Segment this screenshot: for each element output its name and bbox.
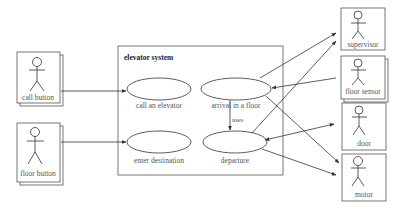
arrow-departure-to-motor	[262, 149, 336, 175]
actor-door[interactable]: door	[342, 103, 386, 150]
use-case-diagram: elevator system call an elevator arrival…	[0, 0, 405, 213]
actor-label: floor button	[20, 169, 56, 178]
use-case-enter-destination[interactable]: enter destination	[127, 131, 191, 165]
uses-label: uses	[232, 116, 244, 123]
actor-label: floor sensor	[345, 87, 381, 96]
actor-motor[interactable]: motor	[342, 154, 386, 201]
use-case-label: arrival in a floor	[212, 101, 261, 110]
use-case-label: call an elevator	[136, 101, 182, 110]
use-case-arrival-in-a-floor[interactable]: arrival in a floor	[201, 78, 271, 110]
actor-label: motor	[355, 190, 373, 199]
actor-label: door	[357, 139, 371, 148]
actor-label: supervisor	[347, 40, 379, 49]
system-title: elevator system	[124, 53, 174, 62]
actor-label: call button	[22, 93, 54, 102]
actor-floor-button[interactable]: floor button	[17, 123, 63, 185]
actor-call-button[interactable]: call button	[17, 52, 63, 106]
actor-supervisor[interactable]: supervisor	[341, 8, 385, 50]
arrow-arrival-to-supervisor	[260, 33, 336, 78]
use-case-label: departure	[221, 156, 250, 165]
associations	[61, 33, 339, 175]
use-case-departure[interactable]: departure	[203, 131, 267, 165]
arrow-floor-sensor-to-arrival	[272, 78, 336, 88]
use-case-label: enter destination	[134, 156, 184, 165]
actor-floor-sensor[interactable]: floor sensor	[341, 56, 388, 102]
use-case-call-an-elevator[interactable]: call an elevator	[127, 78, 191, 110]
